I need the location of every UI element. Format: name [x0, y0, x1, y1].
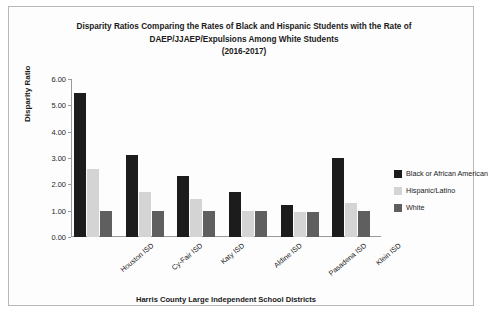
bar	[332, 158, 344, 237]
legend-item: White	[394, 203, 474, 212]
legend-item: Hispanic/Latino	[394, 186, 474, 195]
bar	[281, 205, 293, 237]
bar	[203, 211, 215, 237]
y-tick-label: 1.00	[51, 206, 66, 215]
bar	[139, 192, 151, 237]
legend-swatch-icon	[394, 187, 402, 195]
y-tick-mark	[68, 105, 71, 106]
chart-title-line-2: DAEP/JJAEP/Expulsions Among White Studen…	[49, 34, 439, 47]
y-tick-label: 4.00	[51, 127, 66, 136]
x-tick-label: Cy-Fair ISD	[169, 241, 204, 272]
chart-title: Disparity Ratios Comparing the Rates of …	[49, 21, 439, 59]
y-axis-line	[71, 79, 72, 237]
y-tick-label: 6.00	[51, 75, 66, 84]
bar	[177, 176, 189, 237]
bar	[242, 211, 254, 237]
chart-legend: Black or African AmericanHispanic/Latino…	[394, 169, 474, 220]
y-tick-label: 0.00	[51, 233, 66, 242]
legend-item: Black or African American	[394, 169, 474, 178]
bar	[100, 211, 112, 237]
chart-title-line-1: Disparity Ratios Comparing the Rates of …	[49, 21, 439, 34]
bar	[152, 211, 164, 237]
bar	[294, 212, 306, 237]
legend-label: Hispanic/Latino	[406, 187, 455, 195]
y-tick-mark	[68, 237, 71, 238]
y-axis-label: Disparity Ratio	[23, 66, 32, 122]
x-tick-label: Klein ISD	[374, 241, 403, 267]
legend-swatch-icon	[394, 170, 402, 178]
y-tick-label: 3.00	[51, 154, 66, 163]
chart-frame: Disparity Ratios Comparing the Rates of …	[8, 6, 474, 306]
y-tick-label: 2.00	[51, 180, 66, 189]
x-tick-label: Katy ISD	[219, 241, 247, 266]
bar	[126, 155, 138, 237]
bar	[229, 192, 241, 237]
bar	[358, 211, 370, 237]
legend-label: White	[406, 204, 424, 212]
y-tick-mark	[68, 184, 71, 185]
legend-label: Black or African American	[406, 170, 488, 178]
x-tick-label: Houston ISD	[118, 241, 155, 274]
bar	[87, 169, 99, 237]
y-tick-mark	[68, 79, 71, 80]
bar	[255, 211, 267, 237]
bar	[190, 199, 202, 237]
legend-swatch-icon	[394, 204, 402, 212]
x-axis-label: Harris County Large Independent School D…	[71, 295, 381, 304]
bar	[307, 212, 319, 237]
bar	[345, 203, 357, 237]
bar	[74, 93, 86, 237]
x-tick-label: Aldine ISD	[272, 241, 304, 270]
y-tick-mark	[68, 158, 71, 159]
x-tick-label: Pasadena ISD	[326, 241, 367, 278]
y-tick-mark	[68, 132, 71, 133]
chart-title-line-3: (2016-2017)	[49, 46, 439, 59]
y-tick-mark	[68, 211, 71, 212]
plot-area: 0.001.002.003.004.005.006.00	[71, 79, 381, 237]
y-tick-label: 5.00	[51, 101, 66, 110]
